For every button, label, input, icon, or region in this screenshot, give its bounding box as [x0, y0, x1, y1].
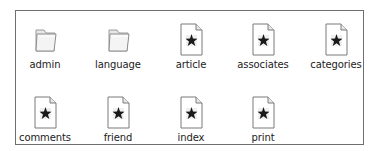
folder-item-admin[interactable]: admin	[9, 21, 81, 81]
folder-item-language[interactable]: language	[82, 21, 154, 81]
php-file-icon	[176, 21, 206, 57]
file-item-friend[interactable]: friend	[82, 94, 154, 151]
file-item-associates[interactable]: associates	[227, 21, 299, 81]
php-file-icon	[248, 21, 278, 57]
php-file-icon	[248, 94, 278, 130]
file-item-categories[interactable]: categories	[300, 21, 372, 81]
file-item-print[interactable]: print	[227, 94, 299, 151]
item-label: categories	[292, 59, 379, 71]
php-file-icon	[103, 94, 133, 130]
folder-icon	[103, 21, 133, 57]
php-file-icon	[30, 94, 60, 130]
file-item-article[interactable]: article	[155, 21, 227, 81]
php-file-icon	[321, 21, 351, 57]
file-item-comments[interactable]: comments	[9, 94, 81, 151]
file-item-index[interactable]: index	[155, 94, 227, 151]
file-view-pane: admin language article associates catego…	[15, 10, 364, 145]
folder-icon	[30, 21, 60, 57]
php-file-icon	[176, 94, 206, 130]
item-label: print	[219, 132, 307, 144]
